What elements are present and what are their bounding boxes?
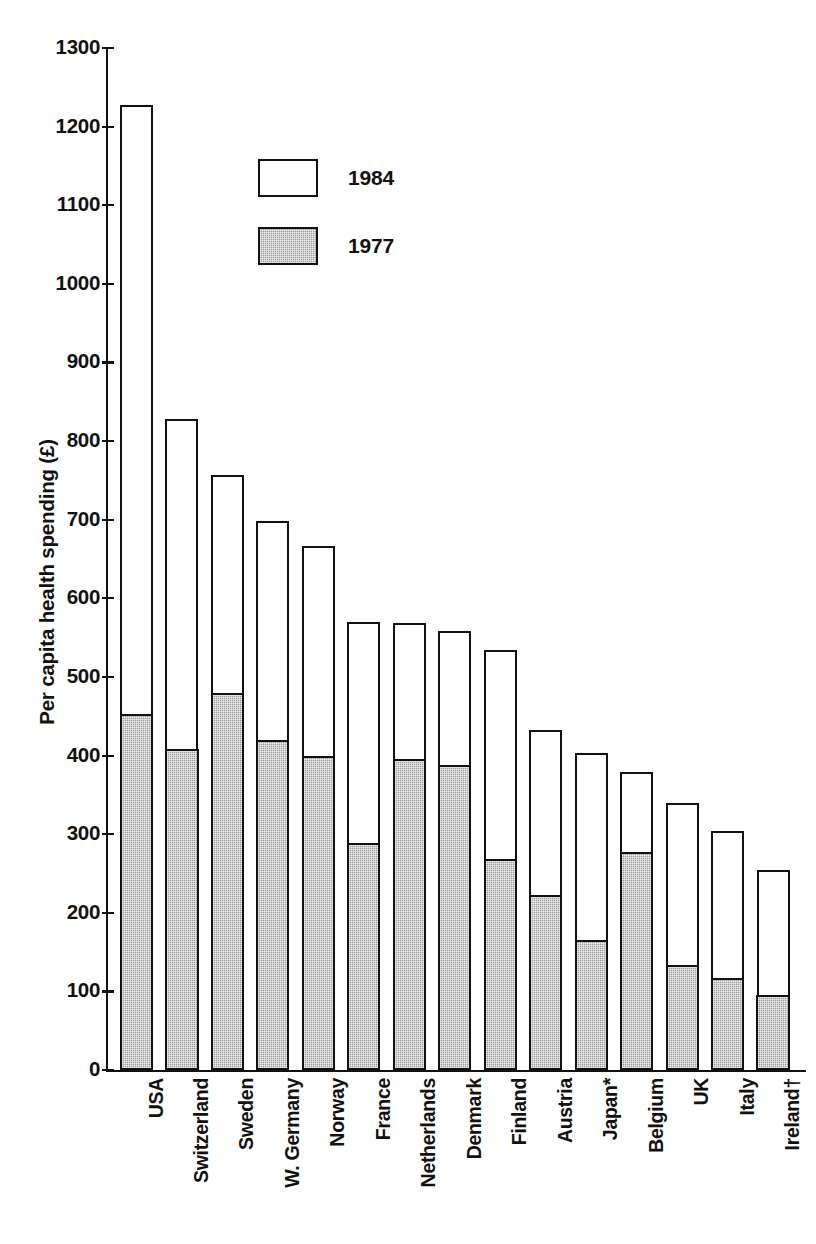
plot-area: 0100200300400500600700800900100011001200…: [106, 48, 806, 1070]
x-axis-category-label: Norway: [326, 1078, 349, 1147]
x-axis-category-label: Switzerland: [190, 1078, 213, 1183]
y-axis-tick-label: 900: [67, 349, 100, 373]
bar-segment-1977: [211, 693, 244, 1070]
y-axis-tick-label: 1300: [56, 35, 100, 59]
y-axis-tick-label: 600: [67, 585, 100, 609]
bar[interactable]: [711, 831, 744, 1070]
bar[interactable]: [529, 730, 562, 1070]
x-axis-category-label: France: [372, 1078, 395, 1140]
bar[interactable]: [211, 475, 244, 1070]
y-axis-tick-label: 200: [67, 900, 100, 924]
bar-segment-1977: [347, 843, 380, 1070]
x-axis-category-label: Denmark: [463, 1078, 486, 1159]
bar-segment-1977: [256, 740, 289, 1070]
bar[interactable]: [484, 650, 517, 1070]
x-axis-category-label: USA: [145, 1078, 168, 1118]
y-axis-tick-label: 1000: [56, 271, 100, 295]
bar-segment-1977: [484, 859, 517, 1070]
x-axis-category-label: Ireland†: [781, 1078, 804, 1150]
bar[interactable]: [575, 753, 608, 1070]
footnote: [44, 1231, 784, 1244]
chart-figure: Per capita health spending (£) 1984 1977…: [0, 0, 816, 1244]
bar-segment-1977: [620, 852, 653, 1071]
y-axis-tick-label: 1100: [57, 192, 100, 216]
bar-segment-1977: [393, 759, 426, 1070]
bar[interactable]: [393, 623, 426, 1070]
bar-segment-1977: [756, 995, 789, 1070]
y-axis-tick-label: 400: [67, 743, 100, 767]
y-axis-tick-label: 500: [67, 664, 100, 688]
bar[interactable]: [438, 631, 471, 1070]
bar-segment-1977: [438, 765, 471, 1070]
x-axis-line: [106, 1070, 806, 1072]
x-axis-category-label: Finland: [508, 1078, 531, 1145]
y-axis-tick-label: 300: [67, 821, 100, 845]
y-axis-title: Per capita health spending (£): [35, 372, 59, 792]
bar-segment-1977: [120, 714, 153, 1070]
bar[interactable]: [120, 105, 153, 1070]
x-axis-category-label: Austria: [554, 1078, 577, 1143]
bar[interactable]: [666, 803, 699, 1070]
bar[interactable]: [165, 419, 198, 1070]
bar-segment-1977: [165, 749, 198, 1070]
y-axis-tick-label: 1200: [56, 114, 100, 138]
x-axis-category-label: W. Germany: [281, 1078, 304, 1188]
bar-group: [106, 48, 806, 1070]
y-axis-tick-label: 0: [89, 1057, 100, 1081]
y-axis-tick-label: 800: [67, 428, 100, 452]
bar[interactable]: [302, 546, 335, 1070]
x-axis-category-label: Japan*: [599, 1078, 622, 1140]
bar[interactable]: [620, 772, 653, 1070]
bar-segment-1977: [666, 965, 699, 1070]
x-axis-category-label: Sweden: [235, 1078, 258, 1150]
x-axis-category-label: Belgium: [645, 1078, 668, 1153]
bar[interactable]: [256, 521, 289, 1070]
bar[interactable]: [347, 622, 380, 1070]
x-axis-category-label: Netherlands: [417, 1078, 440, 1187]
bar-segment-1977: [529, 895, 562, 1070]
bar-segment-1977: [711, 978, 744, 1070]
y-axis-tick-label: 700: [67, 507, 100, 531]
x-axis-category-label: UK: [690, 1078, 713, 1106]
bar-segment-1977: [302, 756, 335, 1070]
y-axis-tick-label: 100: [67, 978, 100, 1002]
bar-segment-1977: [575, 940, 608, 1070]
bar[interactable]: [757, 870, 790, 1070]
x-axis-category-label: Italy: [736, 1078, 759, 1116]
